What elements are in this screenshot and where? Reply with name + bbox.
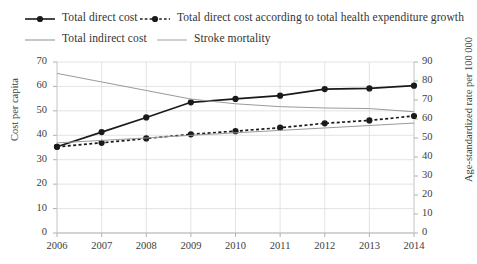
- data-point-marker: [188, 131, 194, 137]
- data-point-marker: [143, 114, 149, 120]
- data-point-marker: [366, 85, 372, 91]
- data-point-marker: [188, 99, 194, 105]
- chart-plot-svg: [0, 0, 477, 264]
- data-point-marker: [54, 144, 60, 150]
- data-point-marker: [232, 96, 238, 102]
- data-point-marker: [99, 129, 105, 135]
- data-point-marker: [366, 117, 372, 123]
- data-point-marker: [322, 86, 328, 92]
- data-point-marker: [322, 120, 328, 126]
- chart-container: Total direct cost Total direct cost acco…: [0, 0, 477, 264]
- plot-area-wrapper: Cost per capita Age-standardized rate pe…: [0, 0, 477, 264]
- data-point-marker: [411, 113, 417, 119]
- data-point-marker: [411, 83, 417, 89]
- data-point-marker: [277, 93, 283, 99]
